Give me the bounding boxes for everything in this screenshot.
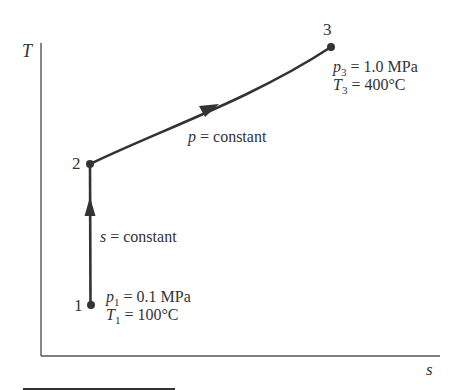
arrow-icon-1-2 [85,197,96,216]
state-label-1: 1 [74,298,83,314]
value-t1: = 100°C [124,306,178,323]
process-var-p: p [188,128,196,145]
y-axis-label: T [22,43,32,59]
sub-t1: 1 [115,314,121,326]
symbol-p1: p [106,288,114,305]
value-p1: = 0.1 MPa [124,288,191,305]
value-t3: = 400°C [351,76,405,93]
sub-t3: 3 [342,84,348,96]
state-label-3: 3 [323,22,332,38]
symbol-t3: T [333,76,342,93]
state-point-3 [327,43,335,51]
symbol-t1: T [106,306,115,323]
state-1-pressure: p1 = 0.1 MPa [106,289,191,305]
state-point-1 [87,301,95,309]
process-label-2-3: p = constant [188,129,266,145]
state-label-2: 2 [72,156,81,172]
process-text-s: = constant [106,228,176,245]
symbol-p3: p [333,58,341,75]
state-1-temperature: T1 = 100°C [106,307,179,323]
state-3-temperature: T3 = 400°C [333,77,406,93]
state-point-2 [86,160,94,168]
process-text-p: = constant [196,128,266,145]
state-3-pressure: p3 = 1.0 MPa [333,59,418,75]
process-label-1-2: s = constant [100,229,177,245]
value-p3: = 1.0 MPa [351,58,418,75]
process-line-1-2 [90,164,91,305]
x-axis-label: s [426,362,433,378]
